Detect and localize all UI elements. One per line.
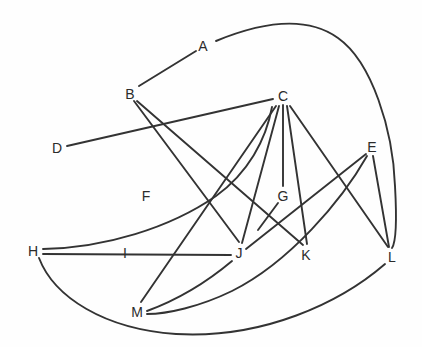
edge-H-C [43,107,272,249]
node-label-c: C [278,89,288,103]
edge-A-B [139,51,196,86]
node-label-b: B [125,87,134,101]
node-label-a: A [198,39,207,53]
node-label-j: J [236,246,243,260]
node-label-k: K [301,248,310,262]
edge-E-L [373,156,389,247]
edge-B-J [134,101,239,242]
node-label-d: D [52,141,62,155]
node-label-h: H [28,244,38,258]
node-label-i: I [123,246,127,260]
node-label-m: M [131,305,143,319]
edge-C-D [67,99,273,146]
graph-edges-layer [0,0,422,347]
graph-canvas: A B C D E F G H I J K L M [0,0,422,347]
edge-H-J [43,254,231,255]
edge-H-L [39,258,385,334]
edge-M-J [147,261,232,311]
node-label-l: L [388,250,396,264]
node-label-e: E [367,140,376,154]
node-label-f: F [142,189,151,203]
edge-C-J [242,106,279,243]
edge-A-L [216,24,396,248]
node-label-g: G [278,189,289,203]
